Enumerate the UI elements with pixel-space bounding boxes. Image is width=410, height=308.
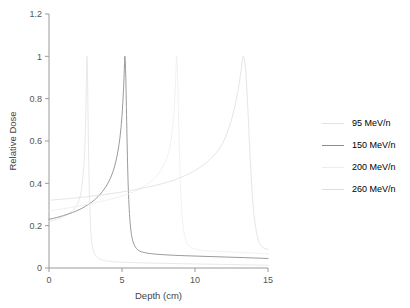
legend-item[interactable]: 200 MeV/n [322,156,410,178]
legend-swatch-icon [322,123,344,124]
x-axis-title: Depth (cm) [135,290,182,301]
legend-item-label: 200 MeV/n [352,162,396,172]
x-tick-label: 15 [263,275,273,285]
legend-item-label: 260 MeV/n [352,184,396,194]
legend-item[interactable]: 150 MeV/n [322,134,410,156]
y-tick-label: 0 [37,263,42,273]
y-axis-title: Relative Dose [7,111,18,170]
legend-item[interactable]: 260 MeV/n [322,178,410,200]
x-tick-label: 10 [190,275,200,285]
y-tick-label: 0.4 [29,179,42,189]
x-tick-label: 5 [119,275,124,285]
y-tick-label: 1.2 [29,9,42,19]
series-curve-0 [49,56,268,265]
y-tick-label: 0.2 [29,221,42,231]
chart-container: 00.20.40.60.811.2051015Depth (cm)Relativ… [0,0,410,308]
legend-item-label: 95 MeV/n [352,118,391,128]
series-curve-3 [49,56,268,249]
series-curve-2 [49,56,268,254]
x-tick-label: 0 [46,275,51,285]
series-curve-1 [49,56,268,258]
legend-swatch-icon [322,189,344,190]
chart-legend: 95 MeV/n150 MeV/n200 MeV/n260 MeV/n [322,112,410,200]
legend-swatch-icon [322,145,344,146]
legend-swatch-icon [322,167,344,168]
y-tick-label: 0.8 [29,94,42,104]
legend-item-label: 150 MeV/n [352,140,396,150]
y-tick-label: 0.6 [29,136,42,146]
legend-item[interactable]: 95 MeV/n [322,112,410,134]
y-tick-label: 1 [37,52,42,62]
